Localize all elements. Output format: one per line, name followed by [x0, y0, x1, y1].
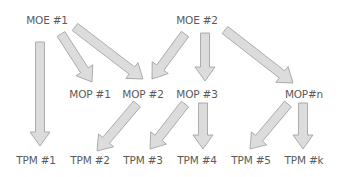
arrow-moe2-to-mop2-icon	[152, 31, 189, 79]
node-label-mop3: MOP #3	[176, 88, 217, 100]
node-label-moe2: MOE #2	[176, 14, 218, 26]
node-label-tpm4: TPM #4	[177, 154, 216, 166]
node-label-tpm5: TPM #5	[231, 154, 270, 166]
arrow-moe2-to-mopn-icon	[222, 27, 293, 84]
arrow-mop3-to-tpm4-icon	[193, 103, 213, 149]
arrow-moe2-to-mop3-icon	[195, 33, 215, 81]
arrow-mop2-to-tpm2-icon	[97, 101, 140, 151]
arrow-mop3-to-tpm3-icon	[150, 101, 189, 149]
moe-mop-tpm-diagram: MOE #1MOE #2MOP #1MOP #2MOP #3MOP#nTPM #…	[0, 0, 341, 177]
arrow-moe1-to-tpm1-icon	[30, 42, 50, 146]
arrow-mopn-to-tpm5-icon	[250, 101, 291, 149]
node-label-tpmk: TPM #k	[285, 154, 324, 166]
node-label-mopn: MOP#n	[285, 88, 323, 100]
node-label-moe1: MOE #1	[26, 14, 68, 26]
node-label-tpm1: TPM #1	[16, 154, 55, 166]
node-label-mop1: MOP #1	[69, 88, 110, 100]
arrow-mopn-to-tpmk-icon	[293, 103, 313, 149]
node-label-tpm3: TPM #3	[123, 154, 162, 166]
node-label-tpm2: TPM #2	[70, 154, 109, 166]
node-label-mop2: MOP #2	[122, 88, 163, 100]
